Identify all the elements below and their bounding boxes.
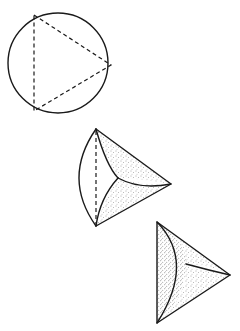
folding-diagram [0,0,240,331]
left-lens-shading [157,222,186,323]
stage-1-circle [8,13,111,113]
diagram-canvas [0,0,240,331]
circle-outline [8,13,108,113]
dashed-triangle [34,15,111,111]
stage-2-partial-fold [79,129,171,226]
stage-3-full-fold [157,222,230,323]
left-arc [79,129,96,226]
